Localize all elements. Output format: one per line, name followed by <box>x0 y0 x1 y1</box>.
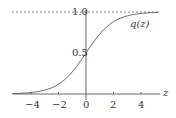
xtick-0: 0 <box>83 100 89 110</box>
xtick--2: −2 <box>52 100 67 110</box>
xtick-2: 2 <box>110 100 116 110</box>
xtick--4: −4 <box>25 100 40 110</box>
ytick-1: 1.0 <box>72 7 88 17</box>
ytick-half: 0.5 <box>72 48 88 58</box>
curve-label: q(z) <box>130 19 149 29</box>
x-axis-label: z <box>163 88 168 98</box>
xtick-4: 4 <box>138 100 144 110</box>
